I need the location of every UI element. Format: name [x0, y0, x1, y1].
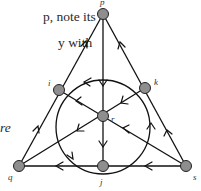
arrow-s-to-r-icon	[123, 125, 129, 133]
node-k	[140, 83, 151, 94]
fano-plane-diagram: p i k r q j s	[0, 0, 201, 191]
edges	[19, 14, 186, 174]
arrow-circle-j-to-k-icon	[147, 123, 155, 129]
node-label-j: j	[99, 177, 103, 187]
node-label-q: q	[8, 172, 13, 182]
node-i	[54, 85, 65, 96]
node-s	[181, 161, 192, 172]
node-label-r: r	[111, 114, 115, 124]
node-label-i: i	[48, 78, 51, 88]
node-label-p: p	[99, 0, 105, 7]
node-label-k: k	[154, 77, 159, 87]
arrow-i-to-p-icon	[81, 41, 87, 48]
node-j	[98, 161, 109, 172]
node-r	[98, 111, 109, 122]
node-p	[98, 9, 109, 20]
node-q	[14, 161, 25, 172]
arrow-r-to-i-icon	[76, 97, 82, 105]
node-label-s: s	[193, 172, 197, 182]
diagram-stage: p, note its y with re	[0, 0, 201, 191]
